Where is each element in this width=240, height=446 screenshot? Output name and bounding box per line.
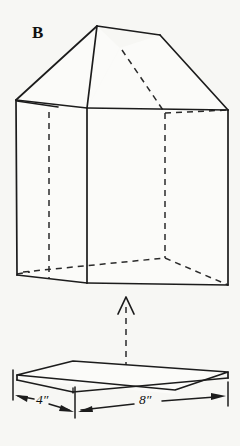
arrow-right-icon-depth (59, 405, 74, 412)
motion-arrow-group (118, 297, 134, 369)
dimension-label-width: 8″ (139, 392, 152, 407)
dimension-width-line-right (162, 397, 215, 401)
prism-solid (16, 26, 228, 285)
arrow-right-icon-width (211, 393, 226, 400)
roof-ridge-line (97, 26, 160, 35)
arrow-left-icon-width (78, 406, 93, 412)
base-plate (17, 361, 228, 394)
wall-edge-left-vertical (16, 100, 17, 275)
figure-label-b: B (32, 23, 43, 42)
figure-container: B 4″ 8″ (0, 0, 240, 446)
dimension-label-depth: 4″ (36, 392, 49, 407)
arrow-left-icon-depth (15, 395, 28, 402)
geometry-figure: B 4″ 8″ (0, 0, 240, 446)
wall-front-left-fill (16, 100, 87, 283)
